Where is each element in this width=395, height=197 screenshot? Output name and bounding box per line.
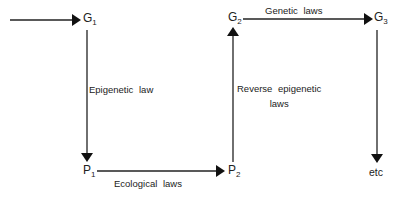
- node-g1-sub: 1: [92, 18, 96, 27]
- diagram-arrows: [0, 0, 395, 197]
- arrowhead-right-icon: [72, 14, 81, 26]
- node-g3-sub: 3: [383, 17, 387, 26]
- edge-label-reverse-epigenetic: Reverse epigenetic laws: [237, 81, 321, 111]
- node-p1-base: P: [83, 163, 91, 177]
- edge-label-ecological: Ecological laws: [114, 178, 182, 189]
- node-p1-sub: 1: [91, 170, 95, 179]
- node-g1: G1: [83, 11, 97, 27]
- edge-label-reverse-epigenetic-line2: laws: [237, 96, 321, 111]
- node-etc: etc: [369, 166, 383, 178]
- node-g2-base: G: [228, 10, 237, 24]
- node-g3: G3: [374, 10, 388, 26]
- node-g2: G2: [228, 10, 242, 26]
- node-g1-base: G: [83, 11, 92, 25]
- arrowhead-right-icon: [364, 13, 373, 25]
- node-p2-sub: 2: [236, 170, 240, 179]
- node-p2: P2: [228, 163, 240, 179]
- node-g2-sub: 2: [237, 17, 241, 26]
- arrowhead-right-icon: [216, 165, 225, 177]
- edge-label-reverse-epigenetic-line1: Reverse epigenetic: [237, 81, 321, 96]
- arrowhead-down-icon: [371, 154, 383, 163]
- arrowhead-up-icon: [227, 27, 239, 36]
- node-p1: P1: [83, 163, 95, 179]
- node-g3-base: G: [374, 10, 383, 24]
- edge-label-genetic: Genetic laws: [265, 5, 322, 16]
- arrowhead-down-icon: [81, 153, 93, 162]
- edge-label-epigenetic: Epigenetic law: [89, 84, 153, 95]
- node-p2-base: P: [228, 163, 236, 177]
